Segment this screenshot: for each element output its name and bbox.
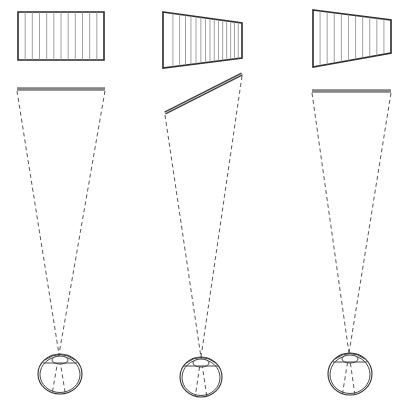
panel-frontal: [17, 12, 105, 394]
panel-frontal-trapezoid: [312, 10, 391, 395]
striped-shape: [163, 12, 242, 68]
perspective-diagram: [0, 0, 406, 411]
sight-ray: [312, 93, 355, 394]
sight-ray: [52, 91, 105, 393]
object-bar-highlight: [165, 74, 242, 113]
sight-ray: [17, 91, 65, 393]
striped-shape: [313, 10, 391, 67]
panel-slanted-object: [163, 12, 242, 397]
sight-ray: [165, 115, 207, 396]
sight-ray: [342, 93, 391, 394]
sight-ray: [195, 76, 242, 396]
